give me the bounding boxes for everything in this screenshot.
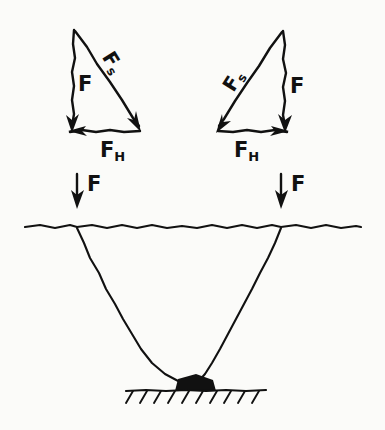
left-cable	[77, 228, 192, 386]
right-fh-base: F	[234, 138, 248, 162]
left-fh-sub: H	[114, 149, 125, 164]
diagram-canvas	[0, 0, 385, 430]
right-triangle-vertical-shaft	[283, 31, 286, 126]
right-triangle-horizontal-label: FH	[234, 140, 259, 163]
right-cable	[194, 228, 281, 386]
left-applied-force	[71, 174, 84, 209]
right-applied-force	[275, 174, 288, 209]
left-triangle-vertical-shaft	[72, 30, 75, 126]
right-fh-sub: H	[248, 149, 259, 164]
left-fh-base: F	[100, 138, 114, 162]
left-triangle-horizontal-label: FH	[100, 140, 125, 163]
left-triangle-diagonal-arrowhead	[127, 111, 141, 132]
force-diagram-figure: F Fs FH F Fs FH F F	[0, 0, 385, 430]
left-applied-force-label: F	[87, 174, 101, 195]
ground-hatching	[126, 391, 259, 403]
ground-anchor-knot	[175, 374, 216, 391]
horizontal-rope-line	[25, 225, 361, 228]
left-triangle-vertical-label: F	[78, 74, 92, 95]
right-triangle-vertical-label: F	[290, 76, 304, 97]
right-applied-force-label: F	[291, 174, 305, 195]
